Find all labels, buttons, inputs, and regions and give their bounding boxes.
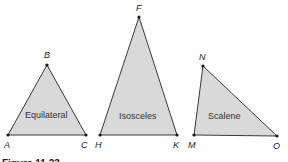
label-c: C [81, 140, 88, 150]
figure-caption: Figure 11.23 [2, 158, 60, 162]
isosceles-triangle: H F K Isosceles [95, 3, 180, 150]
equilateral-triangle: A B C Equilateral [3, 50, 88, 150]
vertex-h [98, 133, 101, 136]
vertex-c [84, 133, 87, 136]
triangle-figure: A B C Equilateral H F K Isosceles M N O … [0, 0, 288, 162]
label-o: O [273, 141, 280, 151]
label-n: N [199, 52, 206, 62]
vertex-k [175, 133, 178, 136]
scalene-label: Scalene [208, 111, 241, 121]
label-m: M [188, 140, 196, 150]
vertex-f [137, 15, 140, 18]
vertex-o [275, 134, 278, 137]
vertex-a [6, 133, 9, 136]
label-k: K [173, 140, 180, 150]
vertex-b [45, 63, 48, 66]
label-f: F [136, 3, 142, 13]
vertex-n [201, 64, 204, 67]
label-a: A [3, 140, 10, 150]
vertex-m [192, 133, 195, 136]
isosceles-label: Isosceles [119, 111, 157, 121]
equilateral-label: Equilateral [25, 110, 68, 120]
label-b: B [44, 50, 50, 60]
label-h: H [95, 140, 102, 150]
scalene-triangle: M N O Scalene [188, 52, 280, 151]
